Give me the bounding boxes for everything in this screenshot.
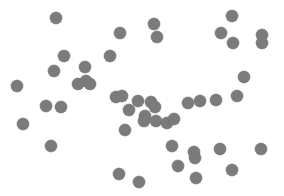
scatter-point — [123, 104, 135, 116]
scatter-point — [11, 80, 23, 92]
scatter-point — [58, 50, 70, 62]
scatter-point — [114, 27, 126, 39]
scatter-point — [104, 50, 116, 62]
scatter-point — [45, 140, 57, 152]
scatter-point — [231, 90, 243, 102]
scatter-point — [182, 97, 194, 109]
scatter-point — [226, 164, 238, 176]
scatter-plot-area — [0, 0, 284, 196]
scatter-point — [113, 168, 125, 180]
scatter-point — [226, 10, 238, 22]
scatter-point — [17, 118, 29, 130]
scatter-point — [132, 95, 144, 107]
scatter-point — [119, 124, 131, 136]
scatter-point — [133, 176, 145, 188]
scatter-point — [55, 101, 67, 113]
scatter-point — [255, 143, 267, 155]
scatter-point — [238, 71, 250, 83]
scatter-point — [256, 37, 268, 49]
scatter-point — [214, 143, 226, 155]
scatter-point — [116, 90, 128, 102]
scatter-point — [79, 61, 91, 73]
scatter-point — [172, 160, 184, 172]
scatter-point — [166, 140, 178, 152]
scatter-point — [40, 100, 52, 112]
scatter-point — [50, 12, 62, 24]
scatter-point — [215, 27, 227, 39]
scatter-point — [168, 113, 180, 125]
scatter-point — [138, 115, 150, 127]
scatter-point — [190, 172, 202, 184]
scatter-point — [227, 37, 239, 49]
scatter-point — [149, 101, 161, 113]
scatter-point — [48, 65, 60, 77]
scatter-point — [151, 31, 163, 43]
scatter-point — [189, 152, 201, 164]
scatter-point — [210, 94, 222, 106]
scatter-point — [84, 78, 96, 90]
scatter-point — [194, 95, 206, 107]
scatter-point — [148, 18, 160, 30]
